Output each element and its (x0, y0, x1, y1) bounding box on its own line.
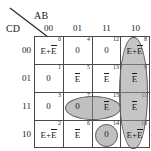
column-header-3: 10 (121, 23, 150, 34)
kmap-cell-index-5: 5 (87, 64, 90, 71)
kmap-cell-index-3: 3 (58, 92, 61, 99)
kmap-cell-0[interactable]: 0 E+E (34, 36, 63, 64)
column-header-2: 11 (92, 23, 121, 34)
kmap-cell-value-8: E+E (120, 45, 149, 57)
kmap-cell-index-1: 1 (58, 64, 61, 71)
kmap-cell-index-13: 13 (113, 64, 119, 71)
kmap-cell-value-11: E (120, 101, 149, 113)
kmap-cell-13[interactable]: 13 E (92, 64, 121, 92)
kmap-cell-index-2: 2 (58, 120, 61, 127)
kmap-cell-value-15: E (92, 101, 121, 113)
kmap-figure: AB CD 00 01 11 10 00 01 11 10 0 E+E (0, 0, 151, 151)
row-header-3: 10 (7, 129, 31, 140)
kmap-cell-value-4: 0 (63, 45, 92, 56)
kmap-cell-value-7: 0 (63, 101, 92, 112)
column-header-1: 01 (63, 23, 92, 34)
gridline-v-4 (149, 36, 150, 148)
axis-label-cd: CD (6, 24, 20, 34)
kmap-cell-value-3: 0 (34, 101, 63, 112)
row-header-0: 00 (7, 45, 31, 56)
kmap-cell-2[interactable]: 2 E+E (34, 120, 63, 148)
kmap-cell-value-5: E (63, 73, 92, 85)
column-header-0: 00 (34, 23, 63, 34)
kmap-cell-5[interactable]: 5 E (63, 64, 92, 92)
row-header-1: 01 (7, 73, 31, 84)
kmap-cell-index-0: 0 (58, 36, 61, 43)
kmap-cell-value-12: 0 (92, 45, 121, 56)
kmap-cell-4[interactable]: 4 0 (63, 36, 92, 64)
kmap-cell-value-14: 0 (92, 129, 121, 140)
kmap-cell-index-4: 4 (87, 36, 90, 43)
kmap-cell-index-8: 8 (144, 36, 147, 43)
kmap-cell-index-12: 12 (113, 36, 119, 43)
kmap-cell-value-9: E (120, 73, 149, 85)
axis-label-ab: AB (34, 11, 48, 21)
kmap-cell-index-6: 6 (87, 120, 90, 127)
kmap-cell-value-0: E+E (34, 45, 63, 57)
kmap-cell-3[interactable]: 3 0 (34, 92, 63, 120)
kmap-cell-1[interactable]: 1 0 (34, 64, 63, 92)
kmap-cell-6[interactable]: 6 E (63, 120, 92, 148)
kmap-cell-value-2: E+E (34, 129, 63, 141)
kmap-cell-value-13: E (92, 73, 121, 85)
kmap-cell-value-6: E (63, 129, 92, 141)
kmap-cell-value-1: 0 (34, 73, 63, 84)
kmap-cell-12[interactable]: 12 0 (92, 36, 121, 64)
row-header-2: 11 (7, 101, 31, 112)
kmap-cell-value-10: E+E (120, 129, 149, 141)
kmap-grid: 0 E+E 4 0 12 0 8 E+E 1 0 5 E 13 E 9 (34, 36, 150, 148)
